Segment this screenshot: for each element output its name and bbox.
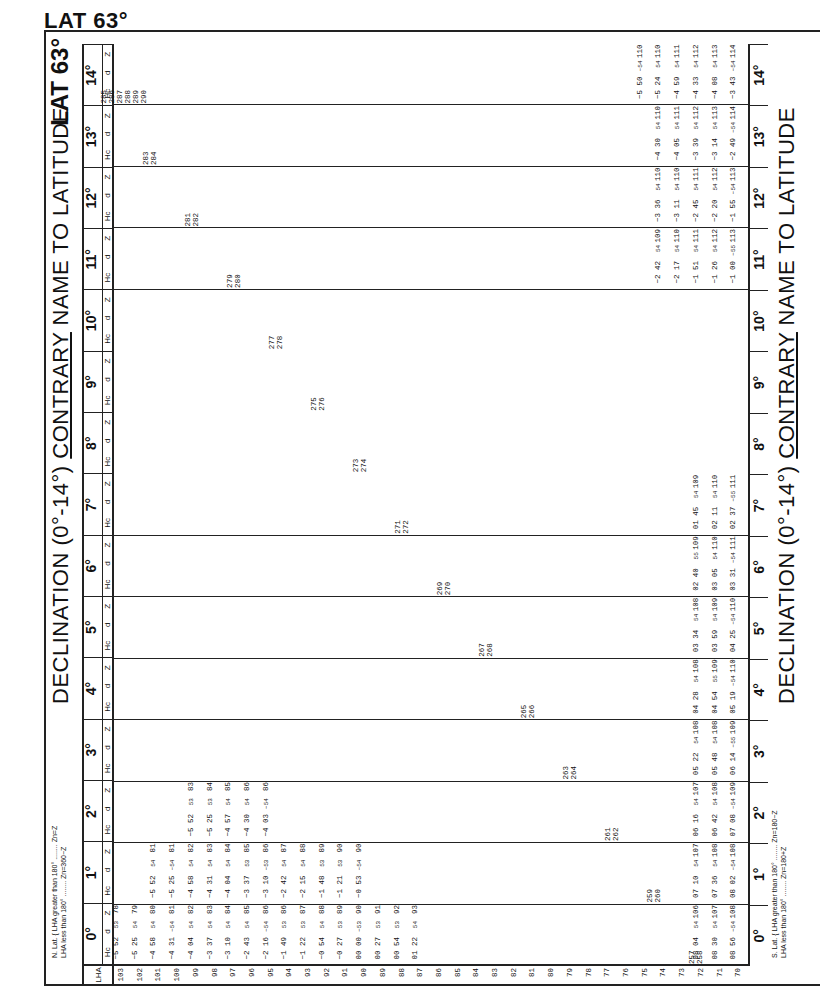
footer-decl-6: 6° bbox=[750, 536, 768, 597]
lha-value: 89 bbox=[374, 966, 393, 984]
lha-value: 72 bbox=[692, 966, 711, 984]
cell-hc: −4 30 bbox=[654, 138, 663, 164]
cell-hc: −2 17 bbox=[673, 261, 682, 287]
decl-label: 3° bbox=[84, 720, 98, 780]
cell-z: 110 bbox=[729, 598, 738, 614]
declination-title-footer: DECLINATION (0°-14°) CONTRARY NAME TO LA… bbox=[774, 107, 800, 704]
staircase-lha-value: 260 bbox=[654, 889, 662, 903]
lha-column: 1031021011009998979695949392919089888786… bbox=[112, 964, 748, 984]
cell-hc: 04 54 bbox=[711, 691, 720, 717]
lha-value: 88 bbox=[393, 966, 412, 984]
decl-header-10: 10°HcdZ bbox=[84, 289, 112, 350]
cell-z: 91 bbox=[374, 905, 383, 921]
staircase-lha-8: 273274 bbox=[352, 459, 368, 473]
staircase-lha-value: 270 bbox=[444, 582, 452, 596]
table-row: −2 1754110 bbox=[673, 229, 682, 287]
subhead-z: Z bbox=[103, 359, 112, 364]
cell-d: 54 bbox=[692, 60, 701, 76]
staircase-lha-value: 281 bbox=[184, 213, 192, 227]
decl-block-13: −4 3054110−4 0554111−3 3954112−3 1454113… bbox=[112, 104, 748, 166]
cell-hc: −2 43 bbox=[243, 937, 252, 963]
staircase-lha-value: 286 bbox=[108, 90, 116, 104]
table-row: 06 4254108 bbox=[711, 782, 720, 840]
staircase-lha-value: 268 bbox=[486, 643, 494, 657]
table-row: −1 495386 bbox=[280, 905, 289, 963]
cell-d: 55 bbox=[711, 675, 720, 691]
cell-d: 54 bbox=[131, 921, 140, 937]
table-row: −2 155488 bbox=[299, 844, 308, 902]
cell-d: −54 bbox=[636, 60, 645, 76]
table-row: −2 16−5486 bbox=[262, 905, 271, 963]
staircase-lha-value: 264 bbox=[570, 766, 578, 780]
subhead-hc: Hc bbox=[103, 273, 112, 283]
table-row: −5 525378 bbox=[112, 905, 121, 963]
subhead-hc: Hc bbox=[103, 947, 112, 957]
decl-block-12: −3 3654110−3 1154110−2 4554111−2 2054112… bbox=[112, 166, 748, 228]
lha-value: 86 bbox=[430, 966, 449, 984]
cell-z: 84 bbox=[224, 844, 233, 860]
lha-value: 77 bbox=[598, 966, 617, 984]
subhead-z: Z bbox=[103, 911, 112, 916]
staircase-lha-11: 279280 bbox=[226, 274, 242, 288]
decl-label: 14° bbox=[84, 45, 98, 105]
decl-header-11: 11°HcdZ bbox=[84, 228, 112, 289]
cell-z: 108 bbox=[711, 844, 720, 860]
cell-d: 54 bbox=[654, 245, 663, 261]
cell-z: 113 bbox=[711, 44, 720, 60]
subhead-d: d bbox=[103, 561, 112, 565]
decl-label: 12° bbox=[84, 168, 98, 228]
table-row: −5 255479 bbox=[131, 905, 140, 963]
subhead-d: d bbox=[103, 684, 112, 688]
staircase-lha-value: 261 bbox=[604, 828, 612, 842]
cell-z: 86 bbox=[262, 782, 271, 798]
subhead-z: Z bbox=[103, 297, 112, 302]
table-row: −4 315483 bbox=[206, 844, 215, 902]
subheader: HcdZ bbox=[102, 720, 112, 780]
staircase-lha-value: 257 bbox=[688, 950, 696, 964]
cell-hc: −2 49 bbox=[729, 138, 738, 164]
table-row: −4 045484 bbox=[224, 844, 233, 902]
cell-z: 112 bbox=[711, 229, 720, 245]
staircase-lha-2: 261262 bbox=[604, 828, 620, 842]
cell-hc: −4 57 bbox=[224, 814, 233, 840]
decl-label: 9° bbox=[84, 352, 98, 412]
cell-z: 109 bbox=[729, 721, 738, 737]
cell-d: −54 bbox=[729, 798, 738, 814]
cell-z: 87 bbox=[299, 905, 308, 921]
cell-hc: −4 04 bbox=[224, 876, 233, 902]
subhead-z: Z bbox=[103, 665, 112, 670]
cell-z: 110 bbox=[673, 167, 682, 183]
subhead-hc: Hc bbox=[103, 395, 112, 405]
subheader: HcdZ bbox=[102, 536, 112, 596]
cell-d: −54 bbox=[729, 60, 738, 76]
lha-header: LHA bbox=[84, 964, 112, 984]
cell-d: 54 bbox=[243, 921, 252, 937]
staircase-lha-value: 289 bbox=[132, 90, 140, 104]
staircase-lha-value: 265 bbox=[520, 705, 528, 719]
subheader: HcdZ bbox=[102, 229, 112, 289]
decl-label: 1° bbox=[84, 842, 98, 902]
subhead-hc: Hc bbox=[103, 763, 112, 773]
cell-d: −54 bbox=[729, 921, 738, 937]
cell-hc: 08 56 bbox=[729, 937, 738, 963]
bottom-rule bbox=[44, 984, 820, 986]
cell-hc: −5 50 bbox=[636, 76, 645, 102]
table-row: 02 37−55111 bbox=[729, 475, 738, 533]
cell-z: 109 bbox=[692, 536, 701, 552]
lha-value: 78 bbox=[580, 966, 599, 984]
subhead-d: d bbox=[103, 255, 112, 259]
cell-hc: −1 48 bbox=[318, 876, 327, 902]
staircase-lha-value: 266 bbox=[528, 705, 536, 719]
lha-value: 75 bbox=[636, 966, 655, 984]
cell-d: −54 bbox=[168, 921, 177, 937]
cell-z: 82 bbox=[187, 905, 196, 921]
cell-hc: −2 15 bbox=[299, 876, 308, 902]
lha-value: 70 bbox=[729, 966, 748, 984]
cell-d: 54 bbox=[692, 860, 701, 876]
cell-z: 81 bbox=[168, 844, 177, 860]
cell-z: 108 bbox=[729, 844, 738, 860]
cell-hc: −0 53 bbox=[355, 876, 364, 902]
decl-label: 7° bbox=[84, 474, 98, 534]
subheader: HcdZ bbox=[102, 904, 112, 964]
footer-declinations: 0°1°2°3°4°5°6°7°8°9°10°11°12°13°14° bbox=[748, 44, 768, 966]
